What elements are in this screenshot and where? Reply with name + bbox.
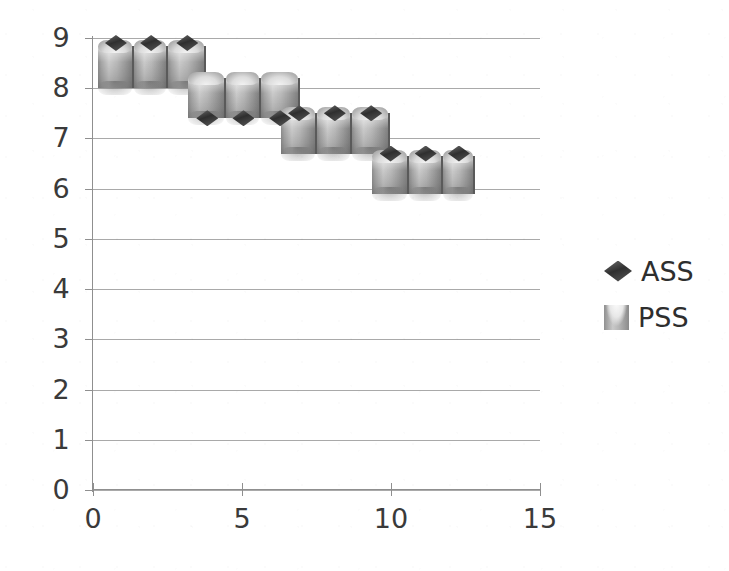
x-tick-label-5: 5: [212, 505, 272, 532]
y-tick-mark-8: [85, 88, 93, 89]
y-tick-mark-9: [85, 38, 93, 39]
y-axis-tick-labels: 0123456789: [10, 0, 70, 571]
legend-label-pss: PSS: [638, 304, 689, 331]
y-tick-mark-4: [85, 289, 93, 290]
gridline-y-2: [93, 390, 540, 391]
y-tick-label-9: 9: [36, 24, 70, 51]
y-tick-label-3: 3: [36, 325, 70, 352]
y-tick-label-0: 0: [36, 476, 70, 503]
legend-label-ass: ASS: [641, 258, 694, 285]
y-tick-mark-3: [85, 339, 93, 340]
y-tick-mark-2: [85, 390, 93, 391]
bar-pss-12: [443, 156, 476, 194]
bar-swatch-icon: [604, 305, 629, 330]
legend-item-pss[interactable]: PSS: [604, 294, 724, 340]
x-tick-label-15: 15: [510, 505, 570, 532]
diamond-marker-icon: [604, 261, 632, 282]
gridline-y-0: [93, 490, 540, 491]
y-axis-line: [92, 36, 93, 492]
y-tick-label-2: 2: [36, 376, 70, 403]
gridline-y-3: [93, 339, 540, 340]
legend-item-ass[interactable]: ASS: [604, 248, 724, 294]
bar-pss-10: [372, 156, 409, 194]
bar-pss-1: [98, 46, 134, 89]
x-axis-line: [92, 489, 541, 490]
x-tick-mark-10: [391, 483, 392, 496]
x-tick-label-0: 0: [63, 505, 123, 532]
gridline-y-5: [93, 239, 540, 240]
plot-area: [93, 38, 540, 490]
x-tick-mark-15: [540, 483, 541, 496]
x-tick-label-10: 10: [361, 505, 421, 532]
gridline-y-1: [93, 440, 540, 441]
y-tick-label-5: 5: [36, 225, 70, 252]
y-tick-mark-5: [85, 239, 93, 240]
bar-pss-11: [409, 156, 443, 194]
y-tick-label-7: 7: [36, 124, 70, 151]
y-tick-label-4: 4: [36, 275, 70, 302]
bar-pss-2: [134, 46, 169, 89]
y-tick-mark-0: [85, 490, 93, 491]
y-tick-label-6: 6: [36, 175, 70, 202]
y-tick-mark-7: [85, 138, 93, 139]
x-tick-mark-5: [242, 483, 243, 496]
chart-legend: ASS PSS: [604, 248, 724, 340]
gridline-y-9: [93, 38, 540, 39]
gridline-y-4: [93, 289, 540, 290]
y-tick-mark-1: [85, 440, 93, 441]
chart-container: 0123456789 051015 ASS PSS: [0, 0, 729, 571]
y-tick-label-8: 8: [36, 74, 70, 101]
y-tick-mark-6: [85, 189, 93, 190]
y-tick-label-1: 1: [36, 426, 70, 453]
x-tick-mark-0: [93, 483, 94, 496]
